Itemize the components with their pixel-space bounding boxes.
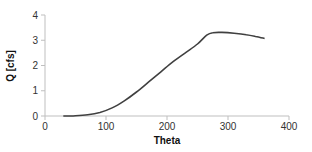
x-tick-label: 300	[220, 121, 237, 132]
x-tick-label: 0	[42, 121, 48, 132]
tick-labels: 012340100200300400	[32, 10, 297, 133]
y-tick-label: 2	[32, 60, 38, 71]
y-tick-label: 1	[32, 85, 38, 96]
line-chart: 012340100200300400 Theta Q [cfs]	[0, 0, 312, 152]
series-line	[63, 32, 264, 116]
y-tick-label: 3	[32, 35, 38, 46]
x-tick-label: 200	[159, 121, 176, 132]
x-axis-title: Theta	[154, 135, 181, 146]
y-axis-title: Q [cfs]	[5, 50, 16, 82]
x-tick-label: 400	[281, 121, 298, 132]
x-tick-label: 100	[98, 121, 115, 132]
y-tick-label: 4	[32, 10, 38, 21]
y-tick-label: 0	[32, 111, 38, 122]
